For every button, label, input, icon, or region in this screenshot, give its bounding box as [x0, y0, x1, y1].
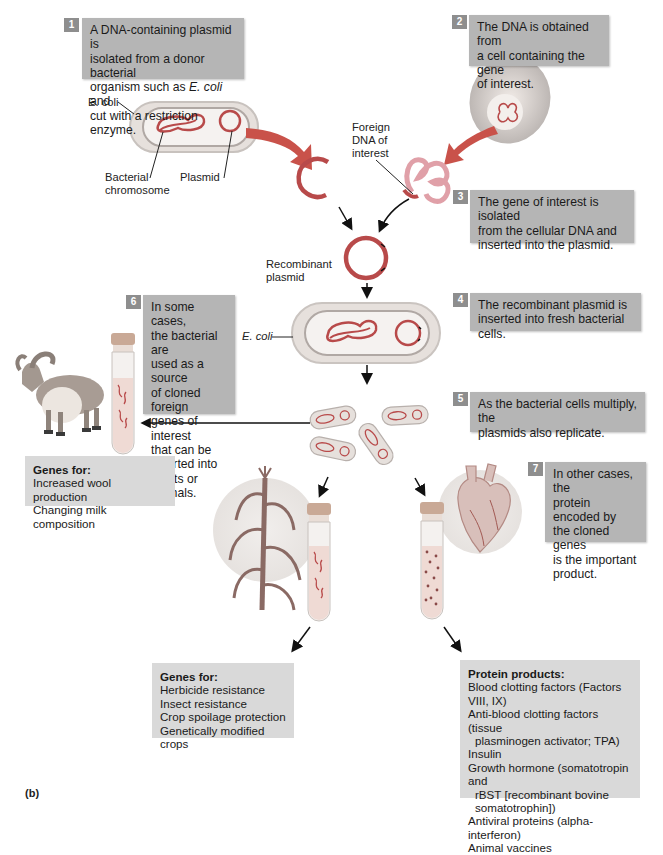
step-7-line: protein encoded by	[553, 496, 638, 525]
step-6-line: In some cases,	[151, 300, 227, 329]
step-6-line: genes of interest	[151, 414, 227, 443]
bacterial-chromosome-label: Bacterial chromosome	[105, 171, 170, 197]
label-line: Bacterial	[105, 171, 170, 184]
step-number-4: 4	[453, 293, 468, 307]
info-box-item: somatotrophin])	[468, 801, 632, 814]
plasmid-label: Plasmid	[180, 171, 220, 184]
info-box-item: plasminogen activator; TPA)	[468, 734, 632, 747]
label-line: Recombinant	[266, 258, 332, 271]
info-box-title: Protein products:	[468, 667, 632, 680]
label-line: chromosome	[105, 184, 170, 197]
info-box-item: Insect resistance	[160, 697, 286, 710]
bacteria-cluster	[308, 405, 428, 468]
protein-products-box: Protein products: Blood clotting factors…	[460, 660, 640, 798]
step-7-line: In other cases, the	[553, 467, 638, 496]
info-box-item: Antiviral proteins (alpha-interferon)	[468, 814, 632, 841]
step-5-line: plasmids also replicate.	[478, 426, 637, 440]
step-2-line: a cell containing the gene	[477, 49, 601, 78]
step-6-line: used as a source	[151, 357, 227, 386]
step-box-1: A DNA-containing plasmid is isolated fro…	[82, 18, 244, 79]
label-line: Foreign	[352, 121, 390, 134]
info-box-item: Herbicide resistance	[160, 683, 286, 696]
foreign-dna-icon	[404, 160, 448, 201]
step-box-2: The DNA is obtained from a cell containi…	[469, 15, 609, 66]
info-box-item: Blood clotting factors (Factors VIII, IX…	[468, 680, 632, 707]
step-number-3: 3	[453, 190, 468, 204]
step-1-line: A DNA-containing plasmid is	[90, 23, 236, 52]
step-2-line: The DNA is obtained from	[477, 20, 601, 49]
bacterium-icon	[292, 303, 440, 363]
goat-icon	[18, 354, 104, 436]
step-box-3: The gene of interest is isolated from th…	[470, 190, 634, 243]
info-box-item: Changing milk composition	[33, 503, 167, 530]
info-box-item: Crop spoilage protection	[160, 710, 286, 723]
step-number-6: 6	[126, 295, 141, 309]
step-number-5: 5	[453, 392, 468, 406]
step-7-line: product.	[553, 567, 638, 581]
step-box-5: As the bacterial cells multiply, the pla…	[470, 392, 645, 432]
step-4-line: The recombinant plasmid is	[478, 298, 633, 312]
step-5-line: As the bacterial cells multiply, the	[478, 397, 637, 426]
step-box-7: In other cases, the protein encoded by t…	[545, 462, 646, 542]
test-tube-icon	[111, 333, 135, 454]
step-7-line: the cloned genes	[553, 524, 638, 553]
panel-label: (b)	[25, 787, 39, 800]
recombinant-plasmid-label: Recombinant plasmid	[266, 258, 332, 284]
info-box-title: Genes for:	[33, 463, 167, 476]
step-4-line: inserted into fresh bacterial cells.	[478, 312, 633, 341]
step-7-line: is the important	[553, 553, 638, 567]
step-number-7: 7	[528, 462, 543, 476]
label-line: interest	[352, 147, 390, 160]
test-tube-icon	[420, 502, 444, 619]
step-6-line: of cloned foreign	[151, 386, 227, 415]
info-box-title: Genes for:	[160, 670, 286, 683]
step-number-1: 1	[64, 18, 79, 32]
ecoli-label-middle: E. coli	[242, 330, 272, 343]
step-1-line: isolated from a donor bacterial	[90, 52, 236, 81]
info-box-item: Increased wool production	[33, 476, 167, 503]
step-number-2: 2	[452, 15, 467, 29]
foreign-dna-label: Foreign DNA of interest	[352, 121, 390, 160]
step-box-6: In some cases, the bacterial are used as…	[143, 295, 235, 414]
info-box-item: Anti-blood clotting factors (tissue	[468, 707, 632, 734]
info-box-item: rBST [recombinant bovine	[468, 788, 632, 801]
label-line: plasmid	[266, 271, 332, 284]
ecoli-label-top: E. coli	[88, 96, 118, 109]
step-box-4: The recombinant plasmid is inserted into…	[470, 293, 641, 331]
plant-genes-box: Genes for: Herbicide resistance Insect r…	[152, 663, 294, 738]
cut-plasmid-icon	[299, 159, 328, 197]
step-3-line: from the cellular DNA and	[478, 224, 626, 238]
info-box-item: Animal vaccines	[468, 841, 632, 854]
info-box-item: Growth hormone (somatotropin and	[468, 761, 632, 788]
recombinant-plasmid-icon	[346, 238, 386, 278]
label-line: DNA of	[352, 134, 390, 147]
step-3-line: The gene of interest is isolated	[478, 195, 626, 224]
info-box-item: Genetically modified crops	[160, 724, 286, 751]
step-6-line: the bacterial are	[151, 329, 227, 358]
arrow-icon	[444, 126, 498, 165]
info-box-item: Insulin	[468, 747, 632, 760]
step-1-line: cut with a restriction enzyme.	[90, 109, 236, 138]
step-3-line: inserted into the plasmid.	[478, 238, 626, 252]
animal-genes-box: Genes for: Increased wool production Cha…	[25, 456, 175, 506]
step-2-line: of interest.	[477, 77, 601, 91]
test-tube-icon	[307, 503, 331, 621]
